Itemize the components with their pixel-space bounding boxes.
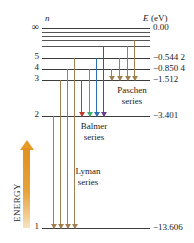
- transition-arrow-head-icon: [117, 76, 123, 81]
- transition-arrow-head-icon: [87, 112, 93, 117]
- transition-arrow-lyman: [53, 116, 54, 228]
- transition-arrow-stem: [74, 58, 75, 228]
- transition-arrow-head-icon: [51, 224, 57, 229]
- energy-level-line: [42, 36, 150, 37]
- level-energy-label: −1.512: [153, 75, 178, 84]
- series-label-balmer-line1: Balmer: [68, 122, 120, 131]
- series-label-lyman-line2: series: [62, 178, 114, 187]
- transition-arrow-stem: [134, 40, 135, 80]
- transition-arrow-head-icon: [65, 224, 71, 229]
- energy-level-line: [42, 28, 150, 29]
- transition-arrow-stem: [67, 69, 68, 228]
- transition-arrow-head-icon: [72, 224, 78, 229]
- series-label-paschen-line2: series: [104, 97, 160, 106]
- level-energy-label: −3.401: [153, 111, 178, 120]
- transition-arrow-head-icon: [94, 112, 100, 117]
- transition-arrow-paschen: [127, 46, 128, 80]
- transition-arrow-stem: [96, 58, 97, 116]
- level-number-label: 3: [24, 74, 39, 83]
- level-number-label: ∞: [24, 22, 39, 32]
- energy-arrow-shaft: [23, 148, 30, 228]
- energy-level-line: [42, 32, 150, 33]
- transition-arrow-lyman: [60, 80, 61, 228]
- transition-arrow-head-icon: [58, 224, 64, 229]
- level-number-label: 5: [24, 52, 39, 61]
- transition-arrow-head-icon: [79, 112, 85, 117]
- series-label-balmer-line2: series: [68, 133, 120, 142]
- transition-arrow-paschen: [119, 58, 120, 80]
- transition-arrow-head-icon: [109, 76, 115, 81]
- transition-arrow-balmer: [81, 80, 82, 116]
- transition-arrow-stem: [53, 116, 54, 228]
- level-energy-label: −0.544 2: [153, 53, 185, 62]
- level-energy-label: −13.606: [153, 223, 183, 232]
- series-label-paschen-line1: Paschen: [104, 86, 160, 95]
- energy-axis-label: ENERGY: [12, 183, 22, 222]
- transition-arrow-head-icon: [132, 76, 138, 81]
- level-number-label: 2: [24, 110, 39, 119]
- transition-arrow-paschen: [111, 69, 112, 80]
- transition-arrow-stem: [89, 69, 90, 116]
- transition-arrow-lyman: [74, 58, 75, 228]
- transition-arrow-head-icon: [125, 76, 131, 81]
- column-header-energy-symbol: E: [143, 14, 149, 23]
- level-number-label: 4: [24, 63, 39, 72]
- transition-arrow-balmer: [96, 58, 97, 116]
- transition-arrow-balmer: [89, 69, 90, 116]
- transition-arrow-paschen: [134, 40, 135, 80]
- column-header-n: n: [45, 14, 50, 23]
- transition-arrow-head-icon: [101, 112, 107, 117]
- series-label-lyman-line1: Lyman: [62, 167, 114, 176]
- level-energy-label: −0.850 4: [153, 64, 185, 73]
- transition-arrow-stem: [81, 80, 82, 116]
- transition-arrow-stem: [60, 80, 61, 228]
- transition-arrow-lyman: [67, 69, 68, 228]
- level-energy-label: 0.00: [153, 23, 169, 32]
- transition-arrow-stem: [127, 46, 128, 80]
- energy-level-diagram: n E (eV) ∞0.005−0.544 24−0.850 43−1.5122…: [0, 0, 194, 243]
